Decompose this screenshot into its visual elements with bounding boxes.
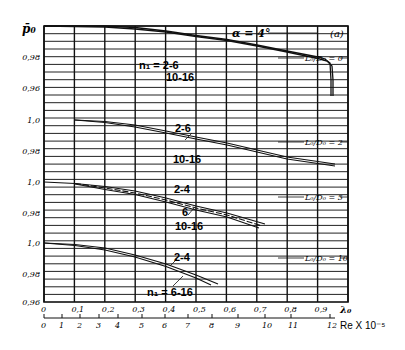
re-tick-label: 8	[209, 321, 214, 330]
re-tick-label: 6	[162, 321, 167, 330]
re-tick-label: 12	[327, 321, 337, 330]
lambda-tick-label: 0,5	[193, 305, 206, 314]
p3-label-2-4: 2-4	[174, 183, 191, 195]
panel-ld0-curves	[44, 26, 333, 96]
y-axis-label: p̄₀	[22, 22, 36, 36]
p4-label-2-4: 2-4	[174, 251, 191, 263]
re-tick-label: 0	[41, 321, 46, 330]
curve-10-16	[75, 120, 335, 166]
re-tick-label: 2	[76, 321, 82, 330]
re-tick-label: 1	[59, 321, 64, 330]
re-tick-label: 11	[288, 321, 298, 330]
curve-n1-2-6	[44, 26, 331, 96]
ld5-label: L₀/D₀ = 5	[304, 193, 343, 202]
y-tick-labels: 0,98 0,96 1,0 0,98 1,0 0,98 1,0 0,98 0,9…	[22, 53, 40, 307]
re-axis-label: Re X 10⁻⁵	[340, 320, 385, 331]
svg-text:1,0: 1,0	[27, 239, 40, 248]
svg-text:0,98: 0,98	[22, 209, 40, 218]
lambda-tick-label: 0,4	[163, 305, 176, 314]
lambda-tick-label: 0,7	[254, 305, 268, 314]
lambda-tick-label: 0,2	[102, 305, 115, 314]
curve-10-16	[75, 184, 259, 228]
ld10-label: L₀/D₀ = 10	[304, 254, 348, 263]
chart-figure: p̄₀ α = 4° (a) L₀/D₀ = 0 L₀/D₀ = 2 L₀/D₀…	[0, 0, 405, 350]
ld2-label: L₀/D₀ = 2	[304, 138, 343, 147]
x-axis-lambda-ticks: 00,10,20,30,40,50,60,70,80,9	[41, 305, 327, 314]
lambda-tick-label: 0,3	[132, 305, 145, 314]
re-tick-label: 7	[185, 321, 191, 330]
p3-label-6: 6	[182, 206, 188, 218]
panel-ld5-curves	[44, 182, 265, 228]
svg-text:0,98: 0,98	[22, 270, 40, 279]
alpha-annotation: α = 4°	[232, 27, 271, 40]
p1-label-10-16: 10-16	[166, 71, 194, 83]
re-tick-label: 3	[96, 321, 101, 330]
svg-text:0,98: 0,98	[22, 53, 40, 62]
svg-text:1,0: 1,0	[27, 178, 40, 187]
re-tick-label: 10	[262, 321, 272, 330]
p1-label-n1-2-6: n₁ = 2-6	[139, 59, 179, 71]
curve-n1-10-16	[44, 26, 333, 96]
svg-text:0,98: 0,98	[22, 147, 40, 156]
lambda-tick-label: 0	[41, 305, 46, 314]
p4-label-n1-6-16: n₁ = 6-16	[147, 286, 193, 298]
lambda-tick-label: 0,6	[223, 305, 236, 314]
ld0-label: L₀/D₀ = 0	[304, 54, 343, 63]
re-tick-label: 9	[235, 321, 240, 330]
re-tick-label: 5	[139, 321, 144, 330]
lambda-axis-label: λ₀	[339, 304, 352, 315]
lambda-tick-label: 0,1	[71, 305, 84, 314]
svg-text:0,96: 0,96	[22, 84, 40, 93]
panel-tag: (a)	[330, 28, 344, 39]
lambda-tick-label: 0,9	[315, 305, 328, 314]
p2-label-2-6: 2-6	[175, 122, 191, 134]
panel-ld2-curves	[75, 120, 335, 166]
svg-text:1,0: 1,0	[27, 116, 40, 125]
p3-label-10-16: 10-16	[175, 220, 203, 232]
re-tick-label: 4	[114, 321, 120, 330]
svg-text:0,96: 0,96	[22, 298, 40, 307]
lambda-tick-label: 0,8	[284, 305, 297, 314]
p2-label-10-16: 10-16	[173, 153, 201, 165]
x-axis-re-ticks: 0123456789101112	[41, 314, 337, 330]
